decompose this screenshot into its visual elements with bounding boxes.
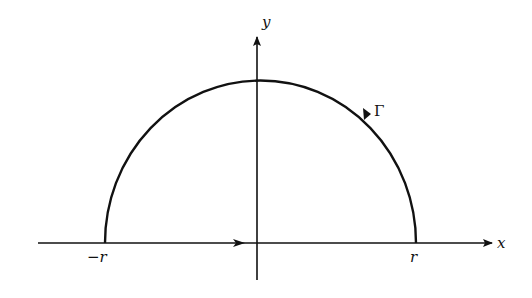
left-point-label: −r <box>87 248 108 266</box>
contour-label: Γ <box>374 102 384 120</box>
right-point-label: r <box>410 248 418 266</box>
contour-gamma-arc <box>105 81 416 243</box>
y-axis-label: y <box>261 13 271 31</box>
x-axis-label: x <box>497 234 506 252</box>
contour-direction-arrow-icon <box>363 108 371 120</box>
semicircle-contour-diagram: y x Γ −r r <box>0 0 532 298</box>
